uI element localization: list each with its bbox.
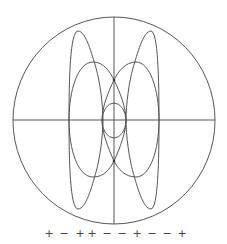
sign-2: +	[75, 228, 85, 240]
sign-4: −	[102, 228, 112, 240]
diagram-figure	[0, 0, 227, 226]
sign-1: −	[59, 228, 69, 240]
sign-9: +	[177, 228, 187, 240]
sign-3: +	[87, 228, 97, 240]
sign-7: −	[147, 228, 157, 240]
sign-sequence: + − + + − − + − − +	[44, 228, 194, 242]
sign-5: −	[117, 228, 127, 240]
sign-6: +	[132, 228, 142, 240]
sign-0: +	[44, 228, 54, 240]
intersection-top	[113, 79, 116, 82]
intersection-bottom	[113, 160, 116, 163]
sign-8: −	[162, 228, 172, 240]
